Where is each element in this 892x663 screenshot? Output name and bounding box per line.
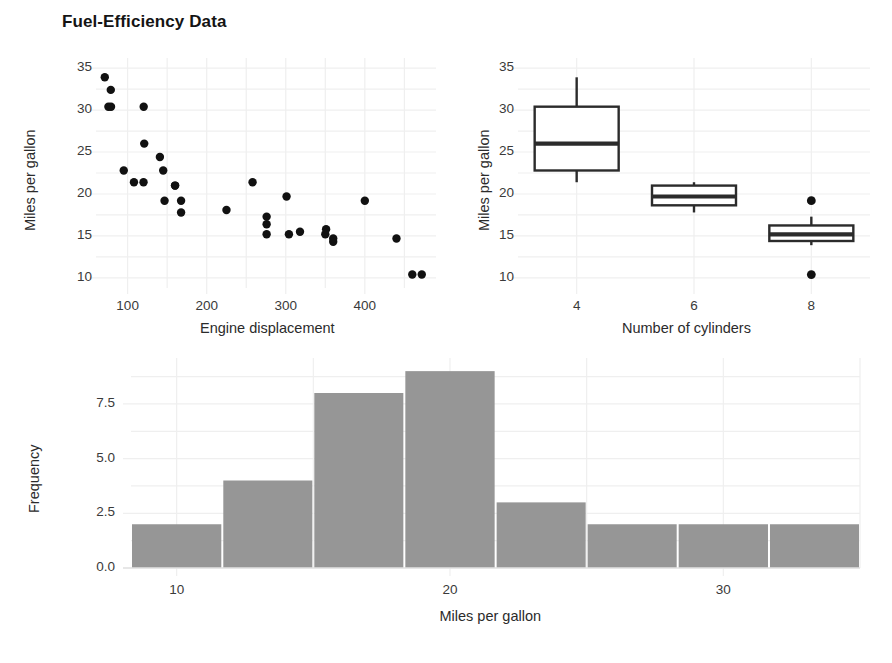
boxplot-y-tick: 35 — [474, 59, 514, 74]
scatter-point — [329, 234, 337, 242]
histogram-x-tick: 20 — [420, 582, 480, 597]
boxplot-x-tick: 6 — [664, 298, 724, 313]
histogram-bar — [497, 502, 586, 568]
scatter-point — [171, 181, 179, 189]
scatter-x-axis-label: Engine displacement — [200, 320, 335, 336]
scatter-point — [262, 230, 270, 238]
boxplot-plot-area — [450, 40, 892, 340]
scatter-y-tick: 30 — [52, 101, 92, 116]
scatter-y-tick: 25 — [52, 143, 92, 158]
histogram-x-tick: 30 — [693, 582, 753, 597]
scatter-point — [262, 220, 270, 228]
histogram-bar — [679, 524, 768, 568]
scatter-point — [107, 86, 115, 94]
figure-container: Fuel-Efficiency Data Miles per gallon En… — [0, 0, 892, 663]
scatter-point — [322, 225, 330, 233]
boxplot-box — [652, 182, 736, 212]
scatter-point — [139, 178, 147, 186]
scatter-y-axis-label: Miles per gallon — [22, 129, 38, 231]
boxplot-y-tick: 20 — [474, 185, 514, 200]
scatter-y-tick: 35 — [52, 59, 92, 74]
scatter-x-tick: 300 — [256, 298, 316, 313]
histogram-x-axis-label: Miles per gallon — [440, 608, 542, 624]
histogram-x-tick: 10 — [147, 582, 207, 597]
histogram-panel: Frequency Miles per gallon 0.02.55.07.51… — [0, 340, 892, 640]
boxplot-x-tick: 4 — [547, 298, 607, 313]
histogram-bar — [588, 524, 677, 568]
histogram-bar — [314, 393, 403, 568]
scatter-point — [107, 102, 115, 110]
histogram-y-tick: 7.5 — [75, 395, 115, 410]
boxplot-y-tick: 15 — [474, 227, 514, 242]
histogram-y-tick: 2.5 — [75, 504, 115, 519]
scatter-point — [159, 166, 167, 174]
scatter-point — [160, 197, 168, 205]
histogram-bar — [405, 371, 494, 568]
boxplot-panel: Miles per gallon Number of cylinders 101… — [450, 40, 892, 340]
scatter-y-tick: 20 — [52, 185, 92, 200]
scatter-x-tick: 100 — [98, 298, 158, 313]
scatter-point — [140, 139, 148, 147]
scatter-point — [361, 197, 369, 205]
histogram-bar — [132, 524, 221, 568]
boxplot-outlier — [807, 270, 816, 279]
histogram-y-tick: 5.0 — [75, 450, 115, 465]
scatter-point — [296, 228, 304, 236]
scatter-point — [222, 206, 230, 214]
scatter-point — [156, 153, 164, 161]
scatter-point — [120, 166, 128, 174]
boxplot-x-tick: 8 — [781, 298, 841, 313]
boxplot-y-tick: 10 — [474, 269, 514, 284]
histogram-bar — [223, 481, 312, 569]
scatter-point — [248, 178, 256, 186]
boxplot-outlier — [807, 196, 816, 205]
histogram-bar — [770, 524, 859, 568]
boxplot-box — [535, 77, 619, 182]
scatter-point — [177, 197, 185, 205]
boxplot-y-tick: 25 — [474, 143, 514, 158]
scatter-point — [101, 73, 109, 81]
scatter-y-tick: 15 — [52, 227, 92, 242]
page-title: Fuel-Efficiency Data — [62, 12, 227, 32]
scatter-point — [282, 192, 290, 200]
scatter-point — [418, 270, 426, 278]
scatter-point — [262, 212, 270, 220]
boxplot-x-axis-label: Number of cylinders — [622, 320, 751, 336]
scatter-point — [392, 234, 400, 242]
scatter-point — [285, 230, 293, 238]
histogram-y-axis-label: Frequency — [26, 444, 42, 513]
scatter-point — [139, 102, 147, 110]
scatter-point — [130, 178, 138, 186]
scatter-y-tick: 10 — [52, 269, 92, 284]
scatter-point — [177, 208, 185, 216]
boxplot-y-tick: 30 — [474, 101, 514, 116]
scatter-point — [408, 270, 416, 278]
histogram-y-tick: 0.0 — [75, 559, 115, 574]
scatter-x-tick: 400 — [335, 298, 395, 313]
scatter-panel: Miles per gallon Engine displacement 101… — [0, 40, 450, 340]
scatter-x-tick: 200 — [177, 298, 237, 313]
